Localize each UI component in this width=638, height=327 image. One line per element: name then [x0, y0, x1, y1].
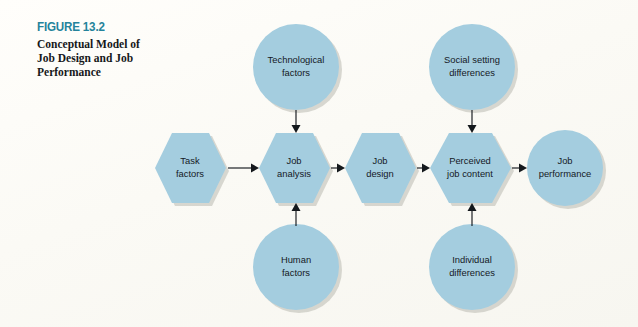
node-label-line-2: differences — [449, 67, 495, 78]
node-label-line-2: performance — [539, 168, 592, 179]
node-task-factors[interactable]: Task factors — [155, 133, 229, 206]
node-label-line-2: job content — [446, 168, 493, 179]
node-label-line-1: Individual — [452, 254, 492, 265]
node-label-line-2: factors — [282, 67, 310, 78]
node-job-analysis[interactable]: Job analysis — [259, 133, 333, 206]
node-label-line-1: Job — [286, 155, 301, 166]
edge-human-factors-to-job-analysis — [292, 203, 301, 226]
node-human-factors[interactable]: Human factors — [253, 224, 342, 313]
conceptual-model-diagram: Technological factors Social setting dif… — [0, 0, 638, 327]
edge-perceived-job-content-to-job-performance — [512, 164, 527, 173]
edge-social-setting-differences-to-perceived-job-content — [468, 110, 477, 133]
edge-individual-differences-to-perceived-job-content — [468, 203, 477, 226]
node-label-line-2: factors — [282, 267, 310, 278]
figure-root: FIGURE 13.2 Conceptual Model of Job Desi… — [0, 0, 638, 327]
node-label-line-2: factors — [176, 168, 204, 179]
node-individual-differences[interactable]: Individual differences — [429, 224, 518, 313]
edge-task-factors-to-job-analysis — [228, 164, 259, 173]
node-label-line-1: Technological — [268, 54, 325, 65]
node-label-line-1: Task — [180, 155, 200, 166]
edge-technological-factors-to-job-analysis — [292, 110, 301, 133]
node-technological-factors[interactable]: Technological factors — [253, 24, 342, 113]
edge-job-analysis-to-job-design — [331, 164, 345, 173]
node-label-line-2: differences — [449, 267, 495, 278]
node-label-line-1: Job — [372, 155, 387, 166]
edge-job-design-to-perceived-job-content — [417, 164, 430, 173]
node-label-line-1: Social setting — [444, 54, 500, 65]
node-perceived-job-content[interactable]: Perceived job content — [430, 133, 514, 206]
node-label-line-2: design — [366, 168, 394, 179]
node-label-line-1: Perceived — [449, 155, 491, 166]
node-social-setting-differences[interactable]: Social setting differences — [429, 24, 518, 113]
node-label-line-1: Job — [557, 155, 572, 166]
node-label-line-1: Human — [281, 254, 311, 265]
node-job-performance[interactable]: Job performance — [527, 130, 606, 209]
node-job-design[interactable]: Job design — [345, 133, 419, 206]
node-label-line-2: analysis — [277, 168, 311, 179]
